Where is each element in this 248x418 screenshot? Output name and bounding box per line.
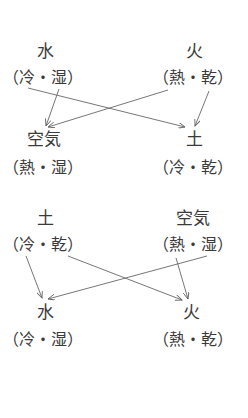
node-air-label: 空気 xyxy=(27,131,61,148)
node-air-qualities: （熱・湿） xyxy=(3,160,83,176)
arrow-earth-to-water xyxy=(26,256,42,298)
node-water-qualities: （冷・湿） xyxy=(3,70,83,86)
node-air-qualities: （熱・湿） xyxy=(153,237,233,253)
node-fire-label: 火 xyxy=(186,43,203,60)
arrow-fire-to-air xyxy=(48,90,168,127)
node-earth-qualities: （冷・乾） xyxy=(3,237,83,253)
node-water-qualities: （冷・湿） xyxy=(3,332,83,348)
node-water-label: 水 xyxy=(37,304,54,321)
node-fire-qualities: （熱・乾） xyxy=(153,332,233,348)
node-fire-qualities: （熱・乾） xyxy=(153,70,233,86)
arrow-air-to-water xyxy=(48,256,207,299)
arrow-water-to-earth xyxy=(28,88,185,127)
node-air-label: 空気 xyxy=(176,210,210,227)
node-earth-label: 土 xyxy=(37,210,54,227)
arrow-air-to-fire xyxy=(176,258,188,299)
node-fire-label: 火 xyxy=(183,304,200,321)
arrow-fire-to-earth xyxy=(195,91,209,126)
node-earth-label: 土 xyxy=(186,131,203,148)
node-water-label: 水 xyxy=(37,43,54,60)
arrow-water-to-air xyxy=(46,89,59,126)
arrow-earth-to-fire xyxy=(68,256,182,300)
node-earth-qualities: （冷・乾） xyxy=(153,160,233,176)
